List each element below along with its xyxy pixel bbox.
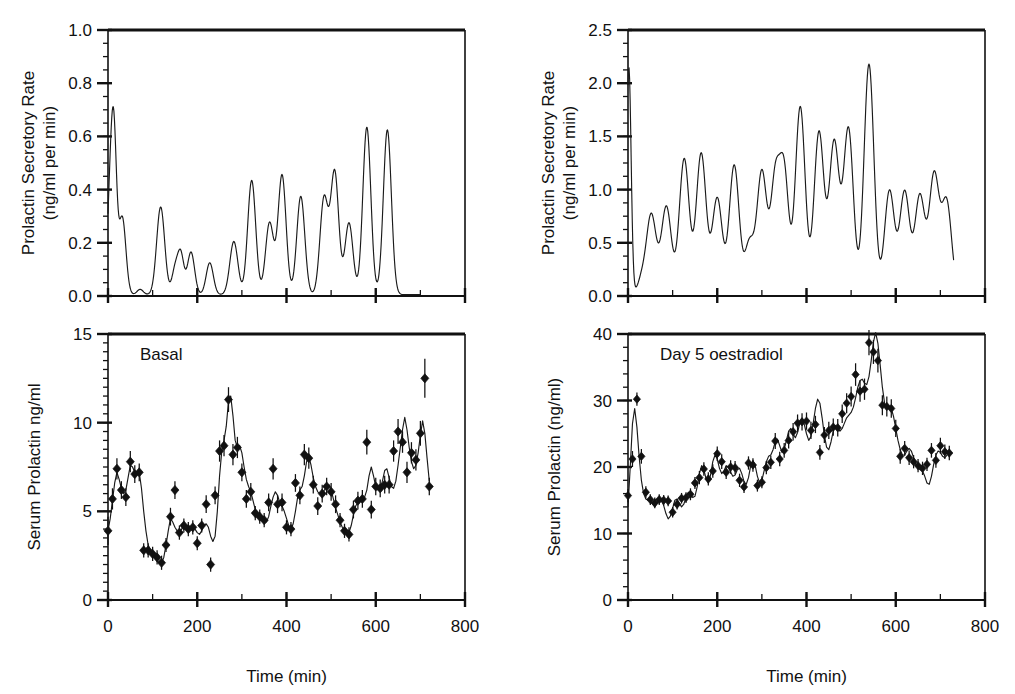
data-point-marker: [166, 512, 174, 521]
panel-bottom-right-canvas: 0102030400200400600800Serum Prolactin (n…: [510, 320, 1015, 694]
data-point-marker: [318, 489, 326, 498]
panel-top-right: 0.00.51.01.52.02.5Prolactin Secretory Ra…: [510, 0, 1015, 330]
data-point-marker: [367, 505, 375, 514]
data-point-marker: [399, 438, 407, 447]
data-point-marker: [193, 539, 201, 548]
data-point-marker: [425, 482, 433, 491]
data-point-marker: [865, 338, 872, 346]
data-point-marker: [718, 457, 725, 465]
y-tick-label: 20: [593, 458, 612, 477]
data-point-marker: [928, 446, 935, 454]
x-tick-label: 0: [103, 617, 112, 636]
y-tick-label: 10: [593, 525, 612, 544]
y-tick-label: 1.0: [588, 181, 612, 200]
y-tick-label: 15: [73, 325, 92, 344]
secretory-rate-trace: [628, 64, 954, 287]
y-tick-label: 0.4: [68, 181, 92, 200]
data-point-marker: [776, 455, 783, 463]
data-point-marker: [937, 442, 944, 450]
data-point-marker: [848, 392, 855, 400]
panel-top-left-canvas: 0.00.20.40.60.81.0Prolactin Secretory Ra…: [0, 0, 505, 330]
x-axis-title: Time (min): [766, 667, 847, 686]
panel-bottom-left: 0510150200400600800Serum Prolactin ng/ml…: [0, 320, 505, 694]
y-tick-label: 1.0: [68, 21, 92, 40]
data-point-marker: [113, 464, 121, 473]
data-point-marker: [162, 540, 170, 549]
data-point-marker: [407, 448, 415, 457]
data-point-marker: [416, 429, 424, 438]
y-axis-title-line: (ng/ml per min): [560, 106, 579, 220]
data-point-marker: [892, 424, 899, 432]
panel-bottom-left-canvas: 0510150200400600800Serum Prolactin ng/ml…: [0, 320, 505, 694]
data-point-marker: [233, 443, 241, 452]
data-point-marker: [291, 478, 299, 487]
y-tick-label: 0: [83, 591, 92, 610]
y-tick-label: 30: [593, 392, 612, 411]
y-axis-title-line: (ng/ml per min): [40, 106, 59, 220]
data-point-marker: [349, 505, 357, 514]
model-fit-line: [108, 396, 429, 563]
y-tick-label: 0.6: [68, 127, 92, 146]
data-point-marker: [839, 410, 846, 418]
panel-top-left: 0.00.20.40.60.81.0Prolactin Secretory Ra…: [0, 0, 505, 330]
y-axis-title: Serum Prolactin (ng/ml): [545, 378, 564, 557]
data-point-marker: [394, 427, 402, 436]
data-point-marker: [772, 437, 779, 445]
x-tick-label: 0: [623, 617, 632, 636]
y-tick-label: 0.8: [68, 74, 92, 93]
data-point-marker: [843, 399, 850, 407]
x-tick-label: 400: [792, 617, 820, 636]
data-point-marker: [332, 500, 340, 509]
x-axis-title: Time (min): [246, 667, 327, 686]
y-tick-label: 0.5: [588, 234, 612, 253]
y-tick-label: 2.0: [588, 74, 612, 93]
y-tick-label: 2.5: [588, 21, 612, 40]
data-point-marker: [390, 446, 398, 455]
data-point-marker: [198, 521, 206, 530]
data-point-marker: [870, 348, 877, 356]
x-tick-label: 800: [451, 617, 479, 636]
data-point-marker: [363, 438, 371, 447]
data-point-marker: [126, 457, 134, 466]
data-point-marker: [171, 485, 179, 494]
data-point-marker: [807, 426, 814, 434]
data-point-marker: [852, 370, 859, 378]
data-point-marker: [816, 448, 823, 456]
data-point-marker: [242, 494, 250, 503]
data-point-marker: [897, 452, 904, 460]
data-point-marker: [336, 516, 344, 525]
data-point-marker: [736, 476, 743, 484]
data-point-marker: [108, 494, 116, 503]
data-point-marker: [247, 487, 255, 496]
panel-bottom-right: 0102030400200400600800Serum Prolactin (n…: [510, 320, 1015, 694]
prolactin-secretion-figure: 0.00.20.40.60.81.0Prolactin Secretory Ra…: [0, 0, 1015, 694]
data-point-marker: [403, 468, 411, 477]
data-point-marker: [207, 560, 215, 569]
data-point-marker: [633, 395, 640, 403]
y-tick-label: 5: [83, 502, 92, 521]
y-tick-label: 0.0: [68, 287, 92, 306]
y-tick-label: 40: [593, 325, 612, 344]
x-tick-label: 200: [183, 617, 211, 636]
y-tick-label: 0.0: [588, 287, 612, 306]
x-tick-label: 400: [272, 617, 300, 636]
y-tick-label: 0.2: [68, 234, 92, 253]
y-tick-label: 1.5: [588, 127, 612, 146]
data-point-marker: [202, 500, 210, 509]
y-axis-title-line: Prolactin Secretory Rate: [539, 71, 558, 255]
x-tick-label: 600: [882, 617, 910, 636]
data-point-marker: [104, 526, 112, 535]
data-point-marker: [269, 464, 277, 473]
x-tick-label: 800: [971, 617, 999, 636]
data-point-marker: [781, 446, 788, 454]
y-tick-label: 0: [603, 591, 612, 610]
panel-top-right-canvas: 0.00.51.01.52.02.5Prolactin Secretory Ra…: [510, 0, 1015, 330]
secretory-rate-trace: [108, 107, 420, 295]
x-tick-label: 200: [703, 617, 731, 636]
panel-annotation: Basal: [140, 345, 183, 364]
panel-annotation: Day 5 oestradiol: [660, 345, 783, 364]
data-point-marker: [314, 501, 322, 510]
data-point-marker: [122, 493, 130, 502]
x-tick-label: 600: [362, 617, 390, 636]
data-point-marker: [421, 374, 429, 383]
